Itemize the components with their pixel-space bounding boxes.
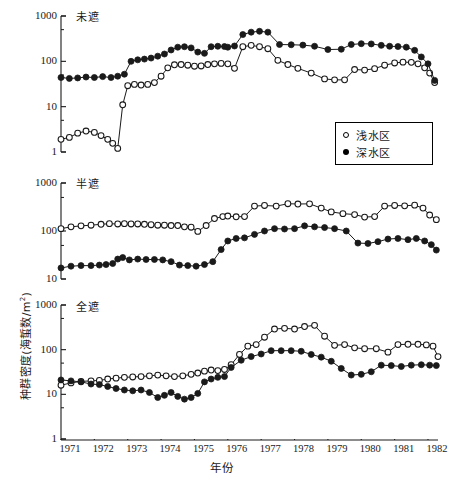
- y-tick-label: 1000: [24, 9, 57, 21]
- legend: 浅水区 深水区: [335, 122, 433, 165]
- x-axis-label: 年份: [0, 459, 443, 475]
- y-tick-label: 10: [24, 100, 57, 112]
- panel-title-unshaded: 未遮: [76, 8, 99, 24]
- y-tick-label: 1000: [24, 176, 57, 188]
- panel-full-shaded: 全遮 1101001000: [24, 291, 443, 441]
- y-tick-label: 100: [24, 224, 57, 236]
- y-tick-label: 1000: [24, 298, 57, 310]
- legend-label-shallow: 浅水区: [356, 127, 391, 143]
- legend-label-deep: 深水区: [356, 144, 391, 160]
- y-axis-label-container: 种群密度(海蜇数/m2): [0, 0, 24, 440]
- y-tick-label: 100: [24, 54, 57, 66]
- filled-circle-icon: [343, 149, 349, 155]
- y-tick-label: 100: [24, 343, 57, 355]
- y-tick-label: 10: [24, 272, 57, 284]
- legend-entry-deep: 深水区: [343, 144, 391, 160]
- open-circle-icon: [343, 132, 349, 138]
- panel-title-half-shaded: 半遮: [76, 175, 99, 191]
- y-tick-label: 10: [24, 387, 57, 399]
- legend-entry-shallow: 浅水区: [343, 127, 391, 143]
- y-tick-label: 1: [24, 145, 57, 157]
- panel-title-full-shaded: 全遮: [76, 298, 99, 314]
- panel-half-shaded: 半遮 101001000: [24, 167, 443, 289]
- x-tick-label: 1982: [414, 443, 452, 454]
